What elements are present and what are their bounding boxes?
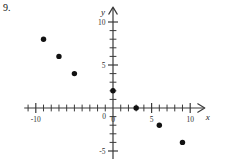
scatter-plot-figure: 9. -1005101050-5 xy <box>0 0 233 159</box>
y-tick-label: 10 <box>98 18 106 27</box>
plot-area: -1005101050-5 xy <box>0 0 233 159</box>
data-point <box>157 123 162 128</box>
x-tick-label: 10 <box>186 115 194 124</box>
tick-marks-group <box>28 22 190 151</box>
y-axis-label: y <box>100 7 105 17</box>
x-tick-label: 0 <box>111 115 115 124</box>
y-tick-label: 5 <box>102 61 106 70</box>
axes-group <box>24 7 205 159</box>
coordinate-plane-svg: -1005101050-5 xy <box>0 0 233 159</box>
x-tick-label: 5 <box>150 115 154 124</box>
data-point <box>56 54 61 59</box>
data-point <box>110 88 115 93</box>
x-axis-label: x <box>205 112 210 122</box>
x-tick-label: -10 <box>31 115 41 124</box>
data-point <box>180 140 185 145</box>
data-point <box>133 105 138 110</box>
data-point <box>72 71 77 76</box>
data-point <box>41 37 46 42</box>
y-tick-label: -5 <box>99 147 105 156</box>
y-tick-label: 0 <box>102 112 106 121</box>
